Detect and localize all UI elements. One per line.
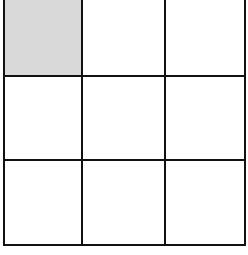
three-by-three-grid [3, 0, 246, 246]
grid-cell-r2-c2 [166, 161, 246, 246]
grid-cell-r1-c0 [3, 77, 83, 161]
grid-cell-r0-c1 [83, 0, 166, 77]
grid-cell-r0-c2 [166, 0, 246, 77]
grid-cell-r1-c2 [166, 77, 246, 161]
grid-cell-r1-c1 [83, 77, 166, 161]
grid-cell-r0-c0-shaded [3, 0, 83, 77]
grid-cell-r2-c0 [3, 161, 83, 246]
grid-cell-r2-c1 [83, 161, 166, 246]
